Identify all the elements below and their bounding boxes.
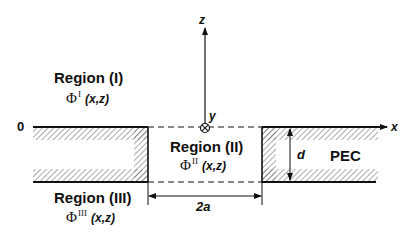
region-3-potential: ΦIII(x,z) [66,208,115,226]
z-axis-label: z [199,13,205,27]
x-axis-label: x [391,120,398,134]
region-2-title: Region (II) [170,138,243,155]
region-1-potential: ΦI(x,z) [66,89,109,107]
y-axis-label: y [209,109,216,123]
region-2-potential: ΦII(x,z) [180,156,226,174]
region-3-title: Region (III) [54,189,132,206]
thickness-label: d [297,147,305,162]
y-axis-into-page-icon [201,124,210,133]
width-label: 2a [196,199,210,214]
region-1-title: Region (I) [54,69,123,86]
pec-label: PEC [330,147,361,164]
origin-label: 0 [17,119,24,134]
left-pec-block [33,127,148,182]
